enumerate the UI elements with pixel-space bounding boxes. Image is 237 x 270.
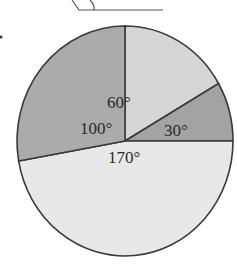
label-100: 100° [80,119,112,138]
stray-dot [0,36,3,39]
label-170: 170° [108,148,140,167]
top-fragment-lines [72,0,163,10]
pie-slices [17,26,233,256]
label-30: 30° [164,121,188,140]
label-60: 60° [107,93,131,112]
pie-chart: 60° 30° 170° 100° [0,0,237,270]
